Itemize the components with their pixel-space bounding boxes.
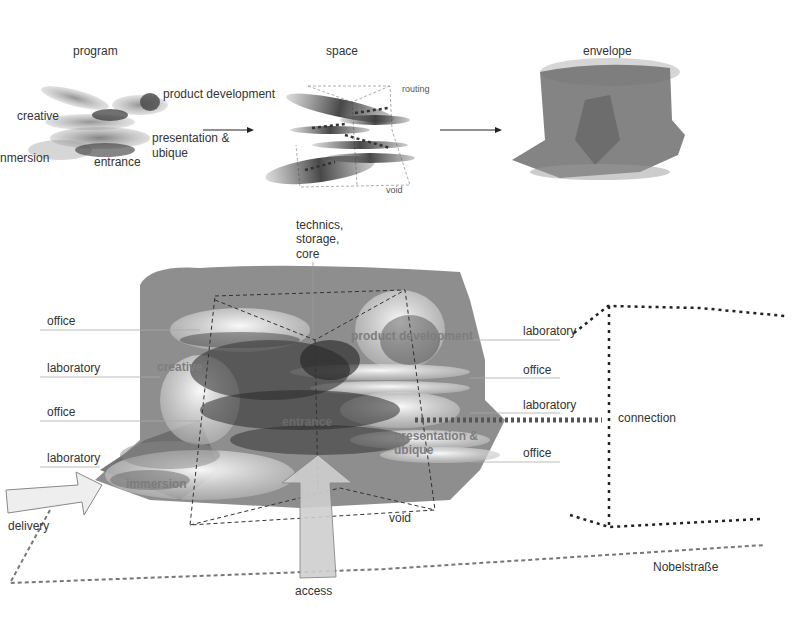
space-title: space [326,44,358,58]
space-label-routing: routing [402,84,430,94]
diagram-canvas [0,0,804,635]
program-label-immersion: nmersion [0,152,49,166]
inner-label-entrance: entrance [282,416,332,430]
program-label-presentation-2: ubique [152,147,188,161]
inner-label-product-development: product development [351,330,473,344]
void-label: void [389,512,411,526]
envelope-shape [512,58,685,180]
space-label-void: void [386,185,403,195]
program-label-creative: creative [17,110,59,124]
left-label-office-1: office [47,315,75,329]
access-label: access [295,585,332,599]
core-label-1: technics, [296,219,343,233]
right-label-office-2: office [523,447,551,461]
left-label-laboratory-1: laboratory [47,362,100,376]
right-label-laboratory-1: laboratory [523,325,576,339]
space-diagram [264,86,415,190]
program-label-entrance: entrance [94,156,141,170]
site-boundary [10,510,765,583]
inner-label-creative: creative [157,361,202,375]
right-label-laboratory-2: laboratory [523,399,576,413]
envelope-title: envelope [583,44,632,58]
left-label-office-2: office [47,406,75,420]
core-label-2: storage, [296,233,339,247]
inner-label-presentation-2: ubique [394,444,433,458]
program-label-product-development: product development [163,88,275,102]
right-label-office-1: office [523,364,551,378]
delivery-label: delivery [8,520,49,534]
program-label-presentation-1: presentation & [152,132,229,146]
inner-label-presentation-1: presentation & [394,430,478,444]
delivery-arrow [6,472,102,515]
core-label-3: core [296,248,319,262]
left-label-laboratory-2: laboratory [47,452,100,466]
program-title: program [73,44,118,58]
connection-label: connection [618,412,676,426]
inner-label-immersion: immersion [126,478,187,492]
street-label: Nobelstraße [653,561,718,575]
